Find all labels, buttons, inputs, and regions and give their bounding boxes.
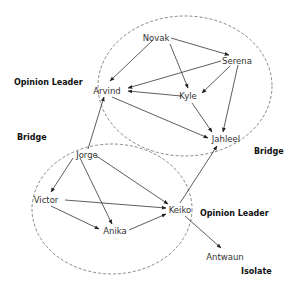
edge-serena-to-jahleel [223,65,238,132]
node-antwaun: Antwaun [206,252,243,262]
edge-kyle-to-arvind [128,91,181,96]
node-kyle: Kyle [179,91,197,101]
role-label-bridge-right: Bridge [254,147,284,156]
node-anika: Anika [103,226,127,236]
role-label-opinion-leader-upper: Opinion Leader [14,78,83,87]
node-keiko: Keiko [169,205,192,215]
node-jahleel: Jahleel [211,134,240,144]
edge-novak-to-kyle [170,44,188,88]
edge-jorge-to-keiko [95,155,168,204]
edge-victor-to-anika [51,206,99,229]
edge-serena-to-kyle [202,66,230,93]
edge-jorge-to-arvind [88,97,104,149]
edge-keiko-to-antwaun [185,216,221,248]
edge-keiko-to-jahleel [180,146,217,203]
node-jorge: Jorge [75,150,98,160]
group-boundaries [32,16,272,274]
edge-kyle-to-jahleel [192,103,212,132]
node-victor: Victor [34,195,59,205]
role-label-opinion-leader-lower: Opinion Leader [200,209,269,218]
role-label-bridge-left: Bridge [17,133,47,142]
edge-jorge-to-victor [51,158,73,192]
edge-novak-to-arvind [110,40,153,81]
network-diagram-svg: NovakSerenaArvindKyleJahleelJorgeVictorK… [0,0,297,286]
role-labels: Opinion LeaderBridgeBridgeOpinion Leader… [14,78,284,276]
node-serena: Serena [222,56,252,66]
edge-arvind-to-jahleel [112,97,208,138]
upper-group-boundary [98,16,272,156]
node-novak: Novak [143,33,170,43]
node-arvind: Arvind [93,86,120,96]
network-diagram: NovakSerenaArvindKyleJahleelJorgeVictorK… [0,0,297,286]
edge-jorge-to-anika [80,158,112,224]
role-label-isolate: Isolate [241,267,272,276]
edge-anika-to-keiko [129,214,166,230]
edge-serena-to-arvind [128,61,221,88]
edge-novak-to-serena [171,38,229,55]
edge-victor-to-keiko [65,200,166,208]
